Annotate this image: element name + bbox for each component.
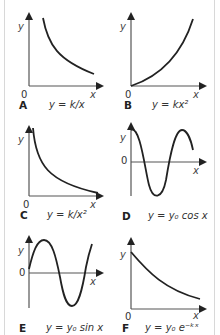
x-axis-label: x — [90, 89, 96, 100]
y-axis-label: y — [18, 245, 24, 256]
y-axis-label: y — [120, 249, 126, 260]
y-axis-label: y — [120, 132, 126, 143]
x-axis-label: x — [90, 276, 96, 287]
panel-letter: D — [122, 210, 131, 222]
panel-equation: y = y₀ e⁻ᵏˣ — [145, 322, 199, 333]
panel-equation: y = y₀ cos x — [148, 210, 208, 221]
graph-cosine — [110, 110, 220, 222]
panel-equation: y = k/x² — [47, 209, 87, 220]
y-axis-label: y — [18, 134, 24, 145]
origin-label: 0 — [125, 311, 131, 322]
x-axis-label: x — [193, 310, 199, 321]
y-axis-label: y — [120, 21, 126, 32]
panel-f: y 0 x F y = y₀ e⁻ᵏˣ — [110, 222, 220, 334]
panel-c: y 0 x C y = k/x² — [0, 110, 110, 222]
x-axis-label: x — [90, 199, 96, 210]
panel-letter: F — [122, 322, 129, 334]
panel-equation: y = kx² — [152, 99, 188, 110]
panel-b: y 0 x B y = kx² — [110, 0, 220, 112]
origin-label: 0 — [121, 155, 127, 166]
panel-letter: C — [20, 209, 28, 221]
panel-equation: y = k/x — [49, 99, 85, 110]
origin-label: 0 — [19, 267, 25, 278]
x-axis-label: x — [193, 165, 199, 176]
panel-equation: y = y₀ sin x — [46, 322, 103, 333]
panel-a: y 0 x A y = k/x — [0, 0, 110, 112]
x-axis-label: x — [193, 89, 199, 100]
panel-e: y 0 x E y = y₀ sin x — [0, 222, 110, 334]
panel-d: y 0 x D y = y₀ cos x — [110, 110, 220, 222]
y-axis-label: y — [18, 21, 24, 32]
panel-letter: E — [19, 322, 26, 334]
